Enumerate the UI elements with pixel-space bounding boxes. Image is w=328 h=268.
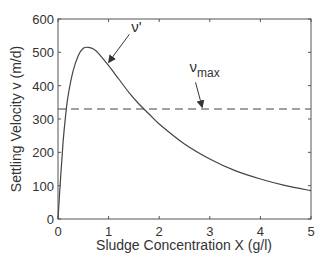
annotations: ν'νmax	[109, 18, 220, 107]
settling-velocity-chart: 0123450100200300400500600 ν'νmax Sludge …	[0, 0, 328, 268]
y-axis-label: Settling Velocity v (m/d)	[8, 46, 24, 192]
y-tick-label: 400	[32, 79, 54, 94]
annotation-arrow	[196, 82, 203, 107]
x-tick-label: 0	[54, 224, 61, 239]
y-tick-label: 100	[32, 179, 54, 194]
annotation-arrow	[109, 34, 130, 62]
x-axis-label: Sludge Concentration X (g/l)	[96, 237, 272, 253]
y-tick-label: 0	[47, 212, 54, 227]
chart-svg: 0123450100200300400500600 ν'νmax Sludge …	[0, 0, 328, 268]
y-tick-label: 300	[32, 112, 54, 127]
axes-frame	[58, 19, 311, 219]
plot-area	[58, 47, 311, 219]
axes: 0123450100200300400500600	[32, 12, 314, 239]
y-tick-label: 200	[32, 145, 54, 160]
vmax-label: νmax	[190, 58, 220, 80]
v-prime-label: ν'	[131, 18, 142, 35]
x-tick-label: 5	[307, 224, 314, 239]
y-tick-label: 600	[32, 12, 54, 27]
y-tick-label: 500	[32, 45, 54, 60]
v-prime-curve	[58, 47, 311, 219]
